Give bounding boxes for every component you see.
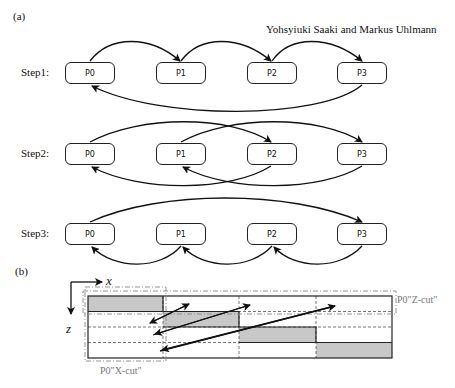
step3-arrows <box>90 198 362 264</box>
z-cut-label: P0"Z-cut" <box>397 294 437 305</box>
process-label: P0 <box>85 230 95 239</box>
z-axis-label: z <box>66 321 71 337</box>
decomposition-diagram <box>71 282 396 361</box>
process-label: P3 <box>357 150 367 159</box>
step2-label: Step2: <box>21 147 49 159</box>
process-label: P1 <box>176 69 186 78</box>
process-label: P2 <box>267 69 277 78</box>
step1-process-p2: P2 <box>247 62 297 84</box>
step2-arrows <box>90 122 362 186</box>
process-label: P0 <box>85 69 95 78</box>
step2-process-p2: P2 <box>247 143 297 165</box>
process-label: P3 <box>357 230 367 239</box>
step3-process-p0: P0 <box>65 223 115 245</box>
step1-label: Step1: <box>21 66 49 78</box>
step2-process-p3: P3 <box>337 143 387 165</box>
process-label: P3 <box>357 69 367 78</box>
step2-process-p0: P0 <box>65 143 115 165</box>
step1-process-p0: P0 <box>65 62 115 84</box>
process-label: P0 <box>85 150 95 159</box>
step3-process-p2: P2 <box>247 223 297 245</box>
process-label: P2 <box>267 150 277 159</box>
step2-process-p1: P1 <box>156 143 206 165</box>
step3-process-p1: P1 <box>156 223 206 245</box>
step1-process-p3: P3 <box>337 62 387 84</box>
step1-arrows <box>90 42 362 112</box>
step3-label: Step3: <box>21 227 49 239</box>
step3-process-p3: P3 <box>337 223 387 245</box>
x-cut-label: P0"X-cut" <box>100 365 142 376</box>
process-label: P1 <box>176 150 186 159</box>
process-label: P1 <box>176 230 186 239</box>
x-axis-label: x <box>106 273 112 289</box>
process-label: P2 <box>267 230 277 239</box>
step1-process-p1: P1 <box>156 62 206 84</box>
